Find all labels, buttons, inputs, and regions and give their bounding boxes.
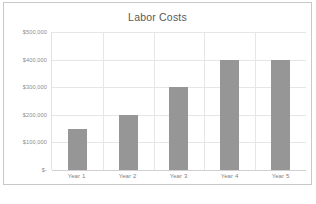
y-axis-tick-label: $300,000 <box>23 84 47 90</box>
y-axis-tick-label: $500,000 <box>23 29 47 35</box>
caption-clip <box>0 192 316 204</box>
bar[interactable] <box>68 129 87 170</box>
bar-slot <box>154 32 205 170</box>
plot-wrapper: $500,000$400,000$300,000$200,000$100,000… <box>51 32 306 170</box>
x-axis-tick-label: Year 2 <box>102 173 153 179</box>
bar-slot <box>52 32 103 170</box>
bar[interactable] <box>220 60 239 170</box>
x-axis-tick-labels: Year 1Year 2Year 3Year 4Year 5 <box>51 173 306 179</box>
chart-title: Labor Costs <box>4 11 311 23</box>
y-axis-tick-label: $100,000 <box>23 139 47 145</box>
bar-slot <box>204 32 255 170</box>
bar[interactable] <box>119 115 138 170</box>
y-axis-tick-label: $200,000 <box>23 112 47 118</box>
x-axis-tick-label: Year 1 <box>51 173 102 179</box>
x-axis-tick-label: Year 3 <box>153 173 204 179</box>
bar-slot <box>103 32 154 170</box>
bar[interactable] <box>169 87 188 170</box>
x-axis-tick-label: Year 4 <box>204 173 255 179</box>
gridline <box>52 170 306 171</box>
y-axis-tick-label: $- <box>42 167 47 173</box>
bar[interactable] <box>271 60 290 170</box>
y-axis-tick-label: $400,000 <box>23 57 47 63</box>
chart-frame: Labor Costs $500,000$400,000$300,000$200… <box>3 2 312 185</box>
bar-slot <box>255 32 306 170</box>
plot-area: $500,000$400,000$300,000$200,000$100,000… <box>51 32 306 170</box>
x-axis-tick-label: Year 5 <box>255 173 306 179</box>
bar-series <box>52 32 306 170</box>
